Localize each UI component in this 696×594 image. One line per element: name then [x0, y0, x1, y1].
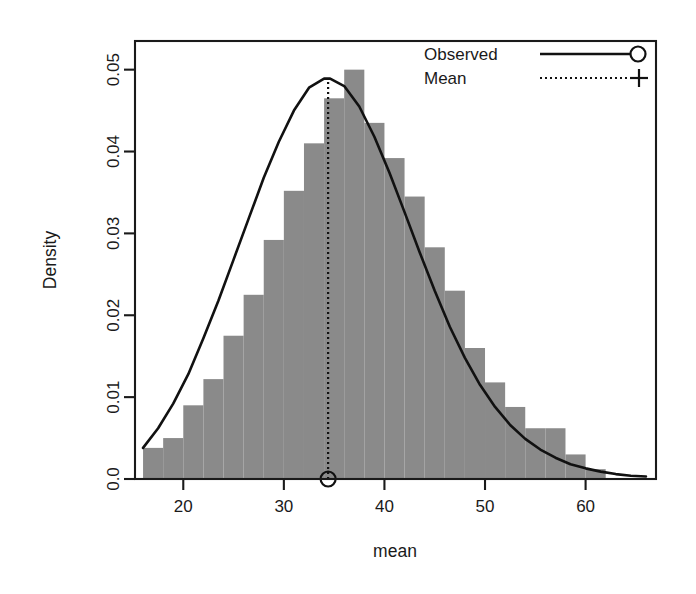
legend-label-observed: Observed	[424, 45, 498, 64]
histogram-bar	[364, 123, 384, 479]
y-tick-label: 0.01	[104, 381, 123, 414]
y-tick-label: 0.04	[104, 135, 123, 168]
y-axis-title: Density	[40, 231, 60, 290]
y-tick-label: 0.03	[104, 217, 123, 250]
y-tick-label: 0.0	[104, 467, 123, 491]
histogram-bar	[505, 407, 525, 479]
x-tick-label: 60	[576, 497, 595, 516]
histogram-bar	[465, 348, 485, 479]
histogram-bar	[284, 191, 304, 479]
histogram-figure: 0.00.010.020.030.040.05 2030405060 Densi…	[0, 0, 696, 594]
histogram-bar	[203, 379, 223, 479]
histogram-bar	[163, 438, 183, 479]
histogram-bar	[304, 143, 324, 479]
histogram-bar	[244, 295, 264, 479]
histogram-bar	[264, 240, 284, 479]
x-tick-label: 50	[476, 497, 495, 516]
y-tick-label: 0.02	[104, 299, 123, 332]
x-tick-label: 30	[274, 497, 293, 516]
histogram-bar	[425, 247, 445, 479]
x-tick-label: 40	[375, 497, 394, 516]
density-histogram-chart: 0.00.010.020.030.040.05 2030405060 Densi…	[0, 0, 696, 594]
x-axis-title: mean	[373, 541, 417, 561]
legend-label-mean: Mean	[424, 69, 467, 88]
histogram-bar	[143, 448, 163, 479]
x-tick-label: 20	[174, 497, 193, 516]
histogram-bar	[344, 70, 364, 479]
histogram-bar	[183, 405, 203, 479]
histogram-bar	[224, 336, 244, 479]
y-tick-label: 0.05	[104, 53, 123, 86]
histogram-bar	[525, 428, 545, 479]
